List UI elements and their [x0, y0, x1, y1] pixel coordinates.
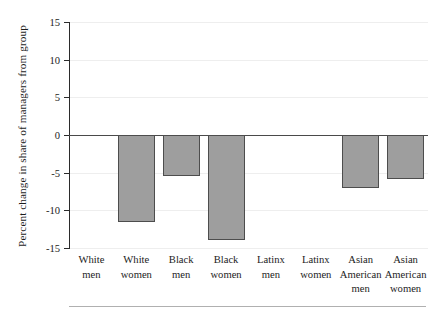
category-label-line: Black — [159, 253, 204, 268]
x-axis-category-label: AsianAmericanwomen — [383, 253, 428, 297]
x-axis-category-label: Blackmen — [159, 253, 204, 282]
category-label-line: men — [338, 282, 383, 297]
category-label-line: American — [338, 268, 383, 283]
plot-area — [69, 22, 428, 248]
y-tick-label: 10 — [26, 55, 60, 66]
category-label-line: Black — [204, 253, 249, 268]
bottom-rule-divider — [69, 306, 426, 307]
bar — [342, 135, 379, 188]
x-axis-category-label: AsianAmericanmen — [338, 253, 383, 297]
y-tick-label: -5 — [26, 168, 60, 179]
category-label-line: White — [69, 253, 114, 268]
category-label-line: Asian — [338, 253, 383, 268]
x-axis-category-label: Latinxmen — [249, 253, 294, 282]
bar — [208, 135, 245, 240]
x-axis-category-label: Blackwomen — [204, 253, 249, 282]
gridline — [70, 248, 428, 249]
y-tick-mark — [64, 248, 69, 249]
x-axis-category-label: Whitewomen — [114, 253, 159, 282]
category-label-line: Asian — [383, 253, 428, 268]
bar-chart-figure: Percent change in share of managers from… — [0, 0, 447, 318]
x-axis-category-labels: WhitemenWhitewomenBlackmenBlackwomenLati… — [69, 253, 428, 299]
category-label-line: men — [69, 268, 114, 283]
bar — [387, 135, 424, 179]
bar — [163, 135, 200, 176]
y-tick-label: -15 — [26, 243, 60, 254]
category-label-line: women — [114, 268, 159, 283]
category-label-line: White — [114, 253, 159, 268]
category-label-line: American — [383, 268, 428, 283]
y-tick-label: -10 — [26, 205, 60, 216]
y-tick-label: 15 — [26, 17, 60, 28]
category-label-line: men — [249, 268, 294, 283]
category-label-line: women — [204, 268, 249, 283]
x-axis-category-label: Whitemen — [69, 253, 114, 282]
y-tick-label: 5 — [26, 92, 60, 103]
y-tick-label: 0 — [26, 130, 60, 141]
category-label-line: women — [293, 268, 338, 283]
category-label-line: men — [159, 268, 204, 283]
bar — [118, 135, 155, 222]
x-axis-category-label: Latinxwomen — [293, 253, 338, 282]
category-label-line: women — [383, 282, 428, 297]
category-label-line: Latinx — [293, 253, 338, 268]
category-label-line: Latinx — [249, 253, 294, 268]
